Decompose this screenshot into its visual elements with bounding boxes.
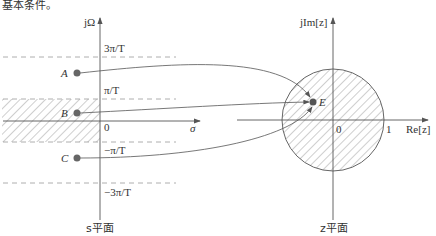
z-plane-origin: 0 [336,123,342,135]
point-b [74,110,81,117]
point-a [74,70,81,77]
point-a-label: A [60,67,68,79]
point-e [310,99,317,106]
z-plane-y-label: jIm[z] [299,16,327,28]
z-plane-title: z平面 [320,222,348,235]
mapping-curve-b [80,102,309,113]
level-neg-3pi-T: −3π/T [104,186,131,198]
s-plane-hatched-strip [2,99,100,142]
point-c [74,155,81,162]
level-3pi-T: 3π/T [104,42,125,54]
s-plane-x-label: σ [190,122,196,134]
s-plane-title: s平面 [86,222,114,235]
level-neg-pi-T: −π/T [104,144,126,156]
point-b-label: B [61,107,68,119]
s-plane-y-label: jΩ [83,16,95,28]
header-text: 基本条件。 [2,0,57,12]
point-c-label: C [61,152,69,164]
z-plane-x-label: Re[z] [406,123,430,135]
s-plane-origin: 0 [104,121,110,133]
z-plane-unit-label: 1 [386,123,392,135]
level-pi-T: π/T [104,84,120,96]
point-e-label: E [318,96,326,108]
diagram-canvas: 基本条件。 jΩ σ 0 3π/T π/T −π/T −3π/T A B C s… [0,0,436,236]
